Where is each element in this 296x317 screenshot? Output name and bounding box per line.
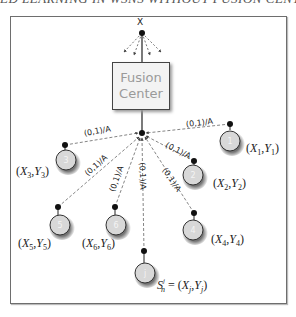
coord-label-node4: (X4,Y4) — [211, 232, 244, 248]
global-node-dot — [139, 30, 145, 36]
hub-dot — [139, 130, 145, 136]
sensor-node-4: 4 — [182, 210, 208, 245]
fusion-center-label-line1: Fusion — [120, 70, 162, 86]
sensor-node-1: 1 — [219, 121, 245, 156]
coord-label-node5: (X5,Y5) — [18, 236, 51, 252]
coord-label-node1: (X1,Y1) — [246, 141, 279, 157]
coord-label-node6: (X6,Y6) — [82, 236, 115, 252]
coord-label-node2: (X2,Y2) — [213, 176, 246, 192]
network-graph: 1 2 3 4 5 6 j — [0, 0, 296, 317]
sensor-node-5: 5 — [49, 204, 75, 240]
global-node-label: X — [137, 17, 143, 27]
svg-text:1: 1 — [227, 137, 232, 146]
sensor-node-3: 3 — [55, 142, 81, 175]
sensor-node-6: 6 — [105, 204, 131, 240]
svg-text:4: 4 — [190, 226, 195, 235]
svg-text:5: 5 — [57, 221, 62, 230]
fusion-center-box: Fusion Center — [112, 62, 170, 110]
svg-text:j: j — [143, 269, 146, 278]
sensor-node-2: 2 — [182, 158, 208, 190]
edge-label-nodej: (0,1)/A — [138, 162, 148, 189]
svg-text:2: 2 — [190, 171, 195, 180]
svg-text:6: 6 — [113, 221, 118, 230]
coord-label-nodej: Sjn = (Xj,Yj) — [157, 277, 207, 294]
coord-label-node3: (X3,Y3) — [16, 164, 49, 180]
svg-text:3: 3 — [63, 156, 68, 165]
fusion-center-label-line2: Center — [119, 86, 163, 102]
